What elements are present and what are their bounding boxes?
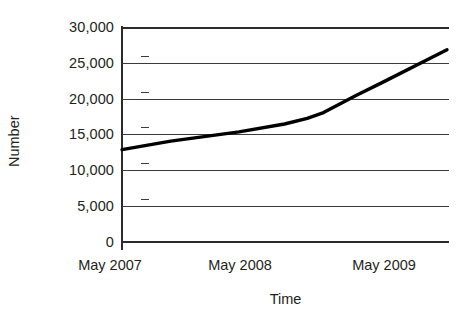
gridline-5000 [122, 206, 449, 207]
x-tick-label-may-2009: May 2009 [319, 258, 449, 273]
plot-area [122, 27, 449, 242]
gridline-25000 [122, 63, 449, 64]
gridline-30000 [122, 27, 449, 29]
gridline-15000 [122, 134, 449, 135]
y-tick-label-20000: 20,000 [30, 92, 114, 107]
gridline-10000 [122, 170, 449, 171]
y-tick-label-25000: 25,000 [30, 56, 114, 71]
y-tick-label-0: 0 [30, 235, 114, 250]
x-tick-label-may-2008: May 2008 [175, 258, 305, 273]
gridline-20000 [122, 99, 449, 100]
x-axis-title: Time [122, 292, 449, 307]
y-axis-tick-labels: 30,000 25,000 20,000 15,000 10,000 5,000… [26, 0, 114, 325]
y-axis-title: Number [7, 106, 22, 176]
line-chart-figure: 30,000 25,000 20,000 15,000 10,000 5,000… [0, 0, 474, 325]
y-tick-label-15000: 15,000 [30, 127, 114, 142]
y-tick-label-10000: 10,000 [30, 163, 114, 178]
y-tick-label-30000: 30,000 [30, 20, 114, 35]
y-tick-label-5000: 5,000 [30, 199, 114, 214]
gridline-0-baseline [122, 241, 449, 243]
x-tick-mark-origin [121, 242, 123, 250]
x-tick-label-may-2007: May 2007 [45, 258, 175, 273]
